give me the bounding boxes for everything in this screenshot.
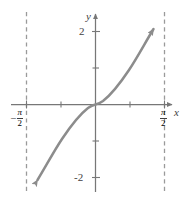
- minus-sign: –: [11, 113, 16, 123]
- fraction-denominator-2: 2: [17, 119, 24, 128]
- y-tick-label-negative-2: -2: [74, 172, 83, 183]
- x-tick-label-negative-pi-over-2: – π 2: [11, 108, 23, 129]
- fraction-numerator-pi: π: [160, 108, 167, 117]
- fraction-pi-over-2-right: π 2: [160, 108, 167, 129]
- x-tick-label-pi-over-2: π 2: [160, 108, 167, 129]
- fraction-pi-over-2-left: π 2: [17, 108, 24, 129]
- tangent-function-graph: y x 2 -2 – π 2 π 2: [0, 0, 185, 202]
- fraction-numerator-pi: π: [17, 108, 24, 117]
- fraction-denominator-2: 2: [160, 119, 167, 128]
- x-axis-label: x: [174, 107, 179, 118]
- y-axis-label: y: [86, 11, 91, 22]
- graph-canvas: [0, 0, 185, 202]
- y-tick-label-2: 2: [79, 26, 85, 37]
